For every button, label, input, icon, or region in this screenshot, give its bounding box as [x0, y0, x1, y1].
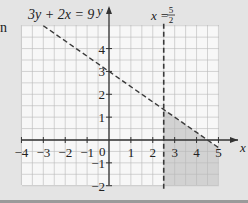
bottom-rule: [0, 200, 248, 203]
x-axis-label: x: [239, 140, 246, 155]
y-axis-arrow-icon: [106, 6, 112, 14]
y-tick-label: 2: [99, 87, 106, 102]
fraction-numerator: 5: [169, 5, 174, 15]
x-tick-label: 5: [215, 145, 222, 160]
line-label-x-eq: x =: [150, 8, 169, 23]
x-tick-label: 4: [193, 145, 200, 160]
x-tick-label: 3: [171, 145, 178, 160]
fraction-denominator: 2: [169, 15, 174, 25]
y-axis-label: y: [95, 3, 103, 18]
y-tick-label: 4: [99, 42, 106, 57]
x-tick-label: −2: [58, 145, 72, 160]
x-axis-arrow-icon: [230, 137, 238, 143]
line-label-3y-2x-9: 3y + 2x = 9: [27, 7, 94, 22]
y-tick-label: −1: [91, 156, 105, 171]
y-tick-label: −2: [91, 179, 105, 194]
x-tick-label: 1: [128, 145, 135, 160]
y-tick-label: 3: [99, 64, 106, 79]
x-tick-label: −3: [36, 145, 50, 160]
inequality-graph: −4−3−2−1012345−2−11234xy3y + 2x = 9x =52: [0, 0, 248, 203]
x-tick-label: 2: [150, 145, 157, 160]
y-tick-label: 1: [99, 110, 106, 125]
x-tick-label: −4: [15, 145, 29, 160]
